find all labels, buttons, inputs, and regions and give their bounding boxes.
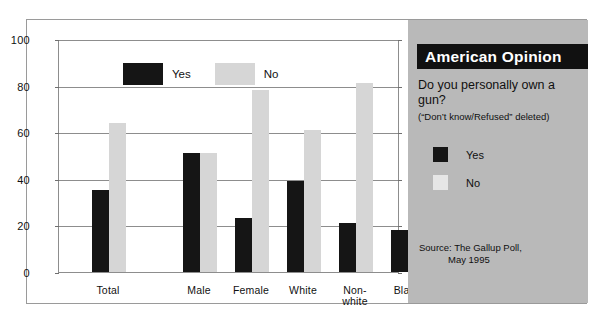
panel-legend-swatch-yes: [433, 147, 448, 162]
bar-male-yes: [183, 153, 200, 272]
y-tick-label-100: 100: [11, 35, 30, 46]
tick-20: [55, 226, 59, 227]
legend-swatch-no: [215, 63, 255, 85]
panel-legend-label-no: No: [466, 177, 480, 189]
y-tick-label-0: 0: [24, 268, 30, 279]
panel-subnote: (“Don’t know/Refused” deleted): [418, 111, 588, 123]
panel-legend-row-no: No: [433, 175, 484, 190]
bar-white-no: [304, 130, 321, 272]
y-tick-label-60: 60: [17, 128, 30, 139]
chart-legend: Yes No: [123, 63, 302, 85]
source-line-1: Source: The Gallup Poll,: [419, 242, 522, 253]
tick-100: [398, 40, 402, 41]
source-line-2: May 1995: [448, 254, 584, 266]
x-axis-label-total: Total: [73, 285, 143, 296]
bar-black-yes: [391, 230, 408, 272]
bar-female-no: [252, 90, 269, 272]
tick-80: [55, 87, 59, 88]
y-tick-label-20: 20: [17, 221, 30, 232]
bar-total-no: [109, 123, 126, 272]
plot-area: Yes No: [58, 40, 399, 273]
bar-white-yes: [287, 181, 304, 272]
tick-20: [398, 226, 402, 227]
panel-legend: Yes No: [433, 147, 484, 203]
panel-question: Do you personally own a gun?: [418, 78, 580, 108]
bar-total-yes: [92, 190, 109, 272]
tick-40: [398, 180, 402, 181]
figure-root: 020406080100 Yes No TotalMaleFemaleWhite…: [0, 0, 614, 333]
side-panel: American Opinion Do you personally own a…: [408, 20, 588, 303]
tick-60: [398, 133, 402, 134]
panel-legend-swatch-no: [433, 175, 448, 190]
panel-source: Source: The Gallup Poll, May 1995: [419, 242, 584, 266]
legend-label-yes: Yes: [172, 68, 191, 80]
legend-label-no: No: [264, 68, 279, 80]
gridline-100: [59, 40, 398, 41]
tick-0: [55, 273, 59, 274]
y-tick-label-80: 80: [17, 81, 30, 92]
bar-female-yes: [235, 218, 252, 272]
bar-non-white-no: [356, 83, 373, 272]
gridline-80: [59, 87, 398, 88]
panel-legend-label-yes: Yes: [466, 149, 484, 161]
bar-non-white-yes: [339, 223, 356, 272]
tick-80: [398, 87, 402, 88]
tick-100: [55, 40, 59, 41]
panel-legend-row-yes: Yes: [433, 147, 484, 162]
legend-swatch-yes: [123, 63, 163, 85]
panel-title-bar: American Opinion: [417, 44, 588, 69]
panel-title: American Opinion: [425, 48, 562, 66]
bar-male-no: [200, 153, 217, 272]
tick-60: [55, 133, 59, 134]
tick-0: [398, 273, 402, 274]
tick-40: [55, 180, 59, 181]
y-tick-label-40: 40: [17, 174, 30, 185]
chart-region: 020406080100 Yes No TotalMaleFemaleWhite…: [27, 20, 408, 303]
